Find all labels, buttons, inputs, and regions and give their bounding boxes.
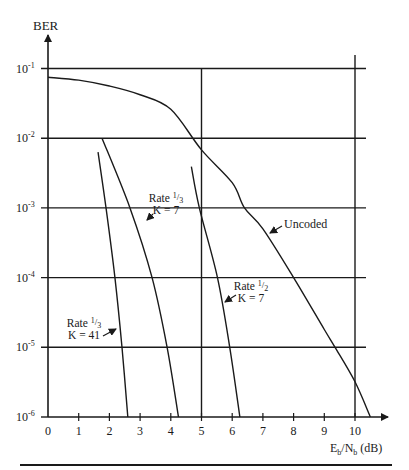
ber-chart: 10-110-210-310-410-510-6012345678910 Unc… [0,0,409,470]
x-tick-label: 8 [291,424,297,438]
uncoded-arrow [270,226,282,233]
annotation-k: K = 7 [153,204,180,216]
annotation-rate: Rate 1/3 [67,316,101,330]
rate-1-2-k7-arrow [225,295,236,302]
x-tick-label: 4 [168,424,174,438]
gridlines [41,55,366,417]
annotation-k: K = 7 [238,292,265,304]
x-axis-label: Eb/Nb (dB) [330,441,382,457]
x-tick-label: 3 [137,424,143,438]
y-tick-label: 10-2 [16,130,35,145]
rate-1-2-k7-curve [191,167,240,417]
y-tick-label: 10-4 [16,270,35,285]
x-tick-label: 2 [106,424,112,438]
y-tick-label: 10-3 [16,200,35,215]
y-tick-label: 10-5 [16,339,35,354]
x-tick-label: 6 [229,424,235,438]
x-tick-label: 5 [199,424,205,438]
curves [48,77,370,417]
ticks: 10-110-210-310-410-510-6012345678910 [16,61,361,439]
y-tick-label: 10-1 [16,61,35,76]
x-tick-label: 0 [45,424,51,438]
annotation-rate-1-3-k7: Rate 1/3K = 7 [149,191,183,216]
annotation-k: K = 41 [68,329,100,341]
annotation-uncoded: Uncoded [284,217,327,231]
axes [48,35,388,417]
annotation-rate-1-3-k41: Rate 1/3K = 41 [67,316,101,341]
x-tick-label: 10 [349,424,361,438]
annotation-rate: Rate 1/2 [234,279,268,293]
y-tick-label: 10-6 [16,409,35,424]
x-tick-label: 1 [76,424,82,438]
annotation-rate: Rate 1/3 [149,191,183,205]
y-axis-label: BER [33,18,59,33]
x-tick-label: 7 [260,424,266,438]
annotations: UncodedRate 1/3K = 7Rate 1/3K = 41Rate 1… [67,191,328,341]
annotation-rate-1-2-k7: Rate 1/2K = 7 [234,279,268,304]
rate-1-3-k7-arrow [147,214,153,220]
rate-1-3-k41-arrow [103,329,116,336]
x-tick-label: 9 [321,424,327,438]
